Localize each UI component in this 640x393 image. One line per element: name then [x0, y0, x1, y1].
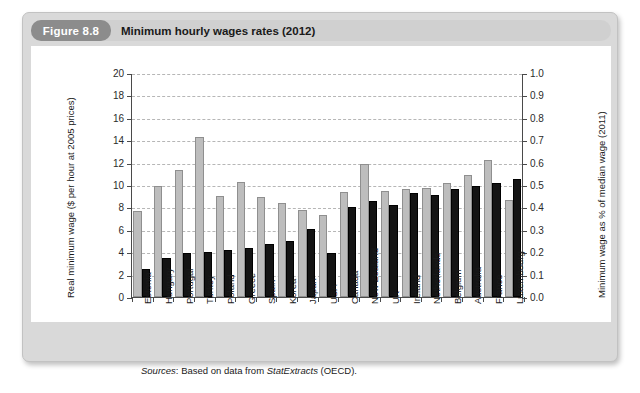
x-axis-category-label: Netherlands	[431, 253, 442, 304]
y-axis-left-tick	[127, 276, 132, 277]
bar-real-minimum-wage	[278, 203, 286, 297]
bar-real-minimum-wage	[381, 191, 389, 297]
y-axis-left-tick	[127, 186, 132, 187]
bar-real-minimum-wage	[505, 200, 513, 297]
bar-group	[483, 74, 504, 297]
bar-real-minimum-wage	[422, 188, 430, 297]
y-axis-left-tick	[127, 141, 132, 142]
y-axis-right-tick	[522, 119, 527, 120]
bar-real-minimum-wage	[133, 211, 141, 297]
source-emphasis: StatExtracts	[267, 365, 318, 376]
y-axis-right-tick	[522, 141, 527, 142]
x-axis-category-label: USA	[328, 284, 339, 304]
y-axis-left-tick-label: 2	[118, 271, 124, 281]
x-axis-category-label: Portugal	[184, 269, 195, 304]
bar-real-minimum-wage	[257, 197, 265, 297]
y-axis-left-tick	[127, 119, 132, 120]
bar-group	[173, 74, 194, 297]
x-axis-category-label: Greece	[246, 273, 257, 304]
x-axis-category-label: Poland	[225, 274, 236, 304]
bar-real-minimum-wage	[195, 137, 203, 297]
y-axis-right-tick-label: 0.7	[530, 136, 544, 146]
y-axis-left-tick	[127, 164, 132, 165]
x-axis-tick	[132, 297, 133, 302]
y-axis-right-tick	[522, 231, 527, 232]
x-axis-category-label: Korea	[287, 279, 298, 304]
bar-group	[132, 74, 153, 297]
source-text-b: (OECD).	[318, 365, 357, 376]
bar-group	[462, 74, 483, 297]
y-axis-right-tick-label: 0.4	[530, 203, 544, 213]
y-axis-left-tick-label: 8	[118, 203, 124, 213]
y-axis-right-tick-label: 0.9	[530, 91, 544, 101]
figure-header-banner: Figure 8.8 Minimum hourly wages rates (2…	[31, 20, 611, 41]
bar-real-minimum-wage	[402, 189, 410, 297]
x-axis-category-label: Australia	[472, 267, 483, 304]
figure-title: Minimum hourly wages rates (2012)	[121, 20, 315, 41]
y-axis-right-title: Minimum wage as % of median wage (2011)	[596, 111, 607, 298]
x-axis-category-label: Estonia	[142, 272, 153, 304]
y-axis-left-tick-label: 6	[118, 226, 124, 236]
y-axis-left-title: Real minimum wage ($ per hour at 2005 pr…	[65, 97, 76, 298]
bar-group	[235, 74, 256, 297]
y-axis-left-tick-label: 10	[113, 181, 124, 191]
bar-real-minimum-wage	[360, 164, 368, 297]
bar-group	[215, 74, 236, 297]
y-axis-right-tick-label: 1.0	[530, 69, 544, 79]
bar-group	[153, 74, 174, 297]
bar-group	[400, 74, 421, 297]
bar-real-minimum-wage	[319, 215, 327, 297]
bar-group	[338, 74, 359, 297]
y-axis-right-tick	[522, 164, 527, 165]
y-axis-left-tick	[127, 253, 132, 254]
y-axis-right-tick-label: 0.3	[530, 226, 544, 236]
bar-real-minimum-wage	[237, 182, 245, 297]
bar-group	[380, 74, 401, 297]
bar-real-minimum-wage	[443, 183, 451, 297]
x-axis-category-label: New Zealand	[369, 248, 380, 304]
y-axis-right-tick-label: 0.6	[530, 159, 544, 169]
x-axis-category-label: UK	[390, 291, 401, 304]
x-axis-category-label: Spain	[266, 280, 277, 304]
x-axis-category-label: Hungary	[163, 268, 174, 304]
y-axis-right-tick-label: 0.8	[530, 114, 544, 124]
bar-real-minimum-wage	[175, 170, 183, 297]
y-axis-right-tick	[522, 74, 527, 75]
figure-number-tag: Figure 8.8	[31, 20, 111, 41]
plot-area: 02468101214161820 0.00.10.20.30.40.50.60…	[131, 74, 523, 298]
y-axis-right-tick	[522, 96, 527, 97]
bar-real-minimum-wage	[216, 196, 224, 297]
chart-panel: Real minimum wage ($ per hour at 2005 pr…	[31, 46, 611, 322]
y-axis-right-tick-label: 0.2	[530, 248, 544, 258]
y-axis-left-tick-label: 12	[113, 159, 124, 169]
figure-card: Figure 8.8 Minimum hourly wages rates (2…	[22, 12, 618, 362]
bar-group	[441, 74, 462, 297]
y-axis-right-tick-label: 0.0	[530, 293, 544, 303]
x-axis-category-label: Turkey	[204, 275, 215, 304]
x-axis-category-label: Ireland	[411, 275, 422, 304]
y-axis-left-tick-label: 16	[113, 114, 124, 124]
x-axis-category-label: Japan	[307, 278, 318, 304]
bar-real-minimum-wage	[340, 192, 348, 297]
x-axis-category-label: Belgium	[452, 270, 463, 304]
y-axis-left-tick-label: 14	[113, 136, 124, 146]
bar-series-container	[132, 74, 522, 297]
source-text-a: : Based on data from	[176, 365, 267, 376]
bar-minimum-wage-pct-median	[389, 205, 397, 297]
y-axis-right-tick-label: 0.5	[530, 181, 544, 191]
x-axis-category-label: Canada	[349, 271, 360, 304]
source-note: Sources: Based on data from StatExtracts…	[141, 365, 357, 376]
bar-real-minimum-wage	[484, 160, 492, 297]
y-axis-left-tick-label: 20	[113, 69, 124, 79]
y-axis-left-tick	[127, 231, 132, 232]
source-label: Sources	[141, 365, 176, 376]
bar-group	[297, 74, 318, 297]
bar-real-minimum-wage	[464, 175, 472, 297]
x-axis-category-label: France	[493, 274, 504, 304]
bar-group	[318, 74, 339, 297]
bar-group	[276, 74, 297, 297]
figure-page: Figure 8.8 Minimum hourly wages rates (2…	[0, 0, 640, 393]
bar-group	[256, 74, 277, 297]
bar-group	[194, 74, 215, 297]
y-axis-left-tick-label: 4	[118, 248, 124, 258]
